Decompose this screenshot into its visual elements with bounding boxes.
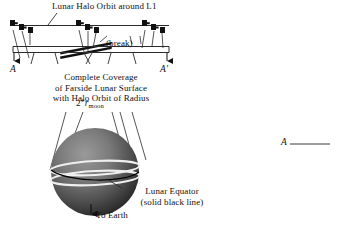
- halo-orbit-title: Lunar Halo Orbit around L1: [52, 1, 157, 12]
- to-earth-label: To Earth: [96, 210, 128, 221]
- right-section-label-a: A: [281, 137, 287, 148]
- coverage-caption-line-1: Complete Coverage: [36, 72, 166, 83]
- satellite-cluster-right: [142, 20, 165, 48]
- halo-radius-label: 2*rmoon: [76, 98, 104, 112]
- coverage-tick-marks: [31, 53, 136, 64]
- lunar-halo-orbit-figure: Lunar Halo Orbit around L1 (break) A A′ …: [0, 0, 337, 226]
- lunar-equator-caption-line-1: Lunar Equator: [124, 186, 220, 197]
- lunar-equator-caption: Lunar Equator (solid black line): [124, 186, 220, 207]
- lunar-equator-caption-line-2: (solid black line): [124, 197, 220, 208]
- section-label-a: A: [10, 64, 16, 75]
- coverage-caption-line-2: of Farside Lunar Surface: [36, 83, 166, 94]
- halo-radius-subscript: moon: [89, 102, 104, 109]
- break-label: (break): [106, 38, 133, 49]
- title-leader-line: [48, 13, 57, 25]
